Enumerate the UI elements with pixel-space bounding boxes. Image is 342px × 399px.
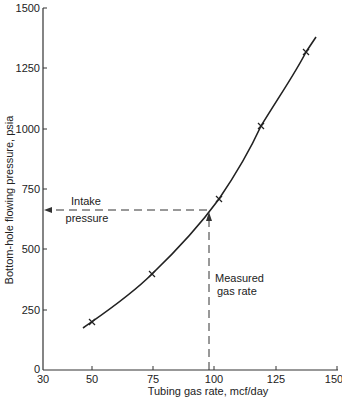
x-tick-label: 50 bbox=[86, 373, 98, 385]
measured-label: Measured bbox=[215, 272, 264, 284]
intake-label: pressure bbox=[66, 212, 109, 224]
y-tick-label: 250 bbox=[22, 304, 40, 316]
x-tick-label: 30 bbox=[37, 373, 49, 385]
x-tick-label: 150 bbox=[325, 373, 342, 385]
intake-label: Intake bbox=[71, 195, 101, 207]
measured-label: gas rate bbox=[217, 285, 257, 297]
arrow-left-icon bbox=[44, 207, 52, 213]
y-tick-label: 500 bbox=[22, 243, 40, 255]
y-tick-labels: 1500 1250 1000 750 500 250 0 bbox=[16, 2, 40, 375]
x-tick-label: 100 bbox=[205, 373, 223, 385]
data-markers bbox=[89, 49, 309, 325]
arrow-up-icon bbox=[206, 212, 212, 221]
chart: 1500 1250 1000 750 500 250 0 30 50 75 10… bbox=[0, 0, 342, 399]
x-tick-label: 125 bbox=[267, 373, 285, 385]
y-tick-label: 1000 bbox=[16, 123, 40, 135]
y-tick-label: 1500 bbox=[16, 2, 40, 14]
x-axis-title: Tubing gas rate, mcf/day bbox=[148, 385, 269, 397]
y-axis-title: Bottom-hole flowing pressure, psia bbox=[3, 115, 15, 285]
x-marker bbox=[216, 196, 222, 202]
x-marker bbox=[89, 319, 95, 325]
x-marker bbox=[149, 271, 155, 277]
x-tick-label: 75 bbox=[147, 373, 159, 385]
x-tick-labels: 30 50 75 100 125 150 bbox=[37, 373, 342, 385]
x-marker bbox=[258, 123, 264, 129]
y-tick-label: 750 bbox=[22, 183, 40, 195]
y-tick-label: 1250 bbox=[16, 62, 40, 74]
x-marker bbox=[303, 49, 309, 55]
tubing-performance-curve bbox=[83, 37, 316, 328]
